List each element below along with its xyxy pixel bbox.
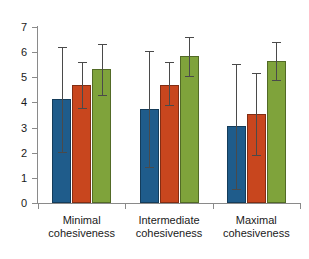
error-cap-lower-group-3-series-1 — [232, 189, 241, 190]
error-bar-group-2-series-2 — [169, 62, 170, 105]
error-bar-group-2-series-1 — [149, 51, 150, 167]
y-tick-0 — [32, 203, 37, 204]
x-category-label-line: Minimal — [38, 214, 125, 227]
y-tick-7 — [32, 27, 37, 28]
error-bar-group-2-series-3 — [189, 37, 190, 75]
error-bar-group-1-series-3 — [102, 44, 103, 95]
y-tick-label-7: 7 — [3, 22, 27, 32]
error-cap-lower-group-1-series-2 — [78, 108, 87, 109]
x-category-label-line: cohesiveness — [125, 227, 212, 240]
y-tick-label-4: 4 — [3, 97, 27, 107]
error-cap-upper-group-1-series-2 — [78, 62, 87, 63]
error-cap-upper-group-3-series-3 — [272, 42, 281, 43]
x-axis-line — [37, 203, 301, 204]
error-cap-upper-group-1-series-1 — [58, 47, 67, 48]
y-tick-label-2: 2 — [3, 148, 27, 158]
x-tick-3 — [300, 203, 301, 209]
y-tick-label-6: 6 — [3, 47, 27, 57]
y-tick-label-0: 0 — [3, 198, 27, 208]
error-cap-upper-group-2-series-3 — [185, 37, 194, 38]
x-category-label-line: cohesiveness — [38, 227, 125, 240]
error-cap-lower-group-3-series-3 — [272, 80, 281, 81]
error-bar-group-1-series-2 — [82, 62, 83, 108]
error-cap-lower-group-2-series-1 — [145, 167, 154, 168]
x-category-label-3: Maximalcohesiveness — [213, 214, 300, 239]
error-cap-upper-group-3-series-2 — [252, 73, 261, 74]
error-bar-group-3-series-1 — [236, 64, 237, 189]
y-tick-1 — [32, 178, 37, 179]
y-tick-label-5: 5 — [3, 72, 27, 82]
x-tick-2 — [213, 203, 214, 209]
x-category-label-line: Intermediate — [125, 214, 212, 227]
x-category-label-line: cohesiveness — [213, 227, 300, 240]
error-cap-upper-group-2-series-2 — [165, 62, 174, 63]
x-tick-0 — [38, 203, 39, 209]
y-tick-4 — [32, 102, 37, 103]
x-tick-1 — [125, 203, 126, 209]
bar-group-3-series-3 — [267, 61, 286, 203]
error-cap-lower-group-1-series-3 — [98, 95, 107, 96]
error-cap-upper-group-3-series-1 — [232, 64, 241, 65]
bar-group-2-series-3 — [180, 56, 199, 203]
y-tick-2 — [32, 153, 37, 154]
y-tick-label-1: 1 — [3, 173, 27, 183]
y-tick-6 — [32, 52, 37, 53]
y-tick-3 — [32, 128, 37, 129]
x-category-label-2: Intermediatecohesiveness — [125, 214, 212, 239]
error-bar-group-3-series-2 — [256, 73, 257, 155]
error-cap-lower-group-2-series-2 — [165, 105, 174, 106]
bar-chart: 01234567 MinimalcohesivenessIntermediate… — [0, 0, 309, 259]
error-cap-upper-group-2-series-1 — [145, 51, 154, 52]
error-cap-lower-group-3-series-2 — [252, 155, 261, 156]
plot-area — [38, 27, 300, 203]
error-cap-upper-group-1-series-3 — [98, 44, 107, 45]
x-category-label-1: Minimalcohesiveness — [38, 214, 125, 239]
x-category-label-line: Maximal — [213, 214, 300, 227]
error-bar-group-3-series-3 — [276, 42, 277, 80]
y-tick-label-3: 3 — [3, 123, 27, 133]
error-bar-group-1-series-1 — [62, 47, 63, 153]
y-tick-5 — [32, 77, 37, 78]
error-cap-lower-group-1-series-1 — [58, 152, 67, 153]
error-cap-lower-group-2-series-3 — [185, 76, 194, 77]
